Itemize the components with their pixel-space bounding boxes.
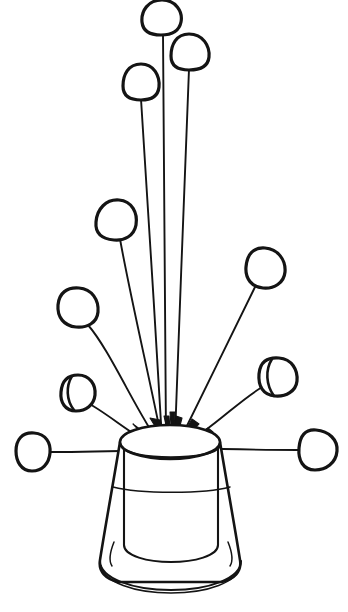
drawing-canvas: Pin flower arrangement line drawing Blac… [0, 0, 348, 612]
pin-head-far-left [16, 433, 50, 471]
vase-group [100, 425, 241, 593]
pin-head-right-lower-creased [259, 358, 297, 396]
pin-head-left-upper [58, 288, 98, 327]
pin-head-left-lower-outline [61, 375, 95, 411]
pin-head-top-center [142, 0, 181, 35]
pin-head-left-lower-creased [61, 375, 95, 411]
pin-head-mid-right-high [246, 248, 285, 288]
pin-head-upper-left [123, 64, 159, 100]
pin-head-mid-left-high [96, 200, 136, 240]
pin-head-right-lower-outline [259, 358, 297, 396]
pin-head-far-right [299, 430, 337, 470]
line-art-illustration: Pin flower arrangement line drawing Blac… [0, 0, 348, 612]
pin-head-upper-right [171, 34, 209, 70]
